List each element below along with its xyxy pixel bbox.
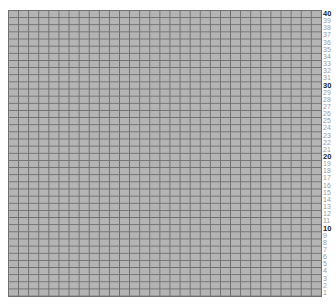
row-label: 16 xyxy=(323,182,331,189)
row-label: 12 xyxy=(323,210,331,217)
row-label: 34 xyxy=(323,53,331,60)
row-label: 19 xyxy=(323,160,331,167)
row-label: 9 xyxy=(323,232,327,239)
row-label: 32 xyxy=(323,67,331,74)
row-label: 25 xyxy=(323,117,331,124)
row-label: 3 xyxy=(323,275,327,282)
row-label: 18 xyxy=(323,167,331,174)
row-label: 38 xyxy=(323,24,331,31)
row-label: 5 xyxy=(323,260,327,267)
row-label: 27 xyxy=(323,103,331,110)
row-label: 37 xyxy=(323,31,331,38)
row-label: 14 xyxy=(323,196,331,203)
row-number-labels: 4039383736353433323130292827262524232221… xyxy=(323,10,336,296)
row-label: 39 xyxy=(323,17,331,24)
row-label: 8 xyxy=(323,239,327,246)
row-label: 20 xyxy=(323,153,331,160)
row-label: 15 xyxy=(323,189,331,196)
chart-grid[interactable] xyxy=(8,10,322,297)
row-label: 30 xyxy=(323,82,331,89)
row-label: 40 xyxy=(323,10,331,17)
row-label: 26 xyxy=(323,110,331,117)
row-label: 6 xyxy=(323,253,327,260)
row-label: 17 xyxy=(323,174,331,181)
row-label: 7 xyxy=(323,246,327,253)
row-label: 1 xyxy=(323,289,327,296)
row-label: 24 xyxy=(323,124,331,131)
row-label: 23 xyxy=(323,132,331,139)
row-label: 29 xyxy=(323,89,331,96)
row-label: 4 xyxy=(323,267,327,274)
row-label: 33 xyxy=(323,60,331,67)
row-label: 22 xyxy=(323,139,331,146)
row-label: 13 xyxy=(323,203,331,210)
row-label: 36 xyxy=(323,39,331,46)
row-label: 10 xyxy=(323,225,331,232)
row-label: 2 xyxy=(323,282,327,289)
row-label: 28 xyxy=(323,96,331,103)
row-label: 35 xyxy=(323,46,331,53)
